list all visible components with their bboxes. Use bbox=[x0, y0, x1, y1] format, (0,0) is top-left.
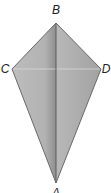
vertex-label-d: D bbox=[102, 62, 111, 76]
vertex-label-a: A bbox=[51, 186, 60, 193]
vertex-label-b: B bbox=[52, 3, 60, 17]
kite-diagram: B C D A bbox=[0, 0, 111, 193]
kite-left-face bbox=[12, 23, 56, 183]
kite-right-face bbox=[56, 23, 101, 183]
vertex-label-c: C bbox=[1, 62, 10, 76]
